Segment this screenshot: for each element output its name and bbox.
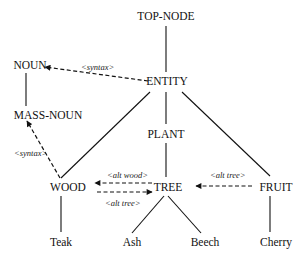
node-top-node: TOP-NODE — [137, 10, 194, 22]
node-tree: TREE — [154, 181, 183, 193]
label-wood-massnoun: <syntax> — [14, 148, 47, 158]
edge-tree-beech — [168, 196, 201, 233]
node-teak: Teak — [50, 236, 72, 248]
node-wood: WOOD — [50, 181, 86, 193]
nodes: TOP-NODE ENTITY NOUN MASS-NOUN PLANT WOO… — [13, 10, 292, 249]
label-wood-tree: <alt tree> — [105, 198, 140, 208]
taxonomy-diagram: <syntax> <syntax> <alt wood> <alt tree> … — [0, 0, 302, 255]
label-tree-wood: <alt wood> — [107, 170, 148, 180]
label-fruit-tree: <alt tree> — [210, 170, 245, 180]
node-fruit: FRUIT — [259, 181, 292, 193]
node-entity: ENTITY — [146, 75, 188, 87]
node-ash: Ash — [123, 236, 142, 248]
edge-entity-wood — [61, 92, 150, 178]
edge-entity-fruit — [182, 92, 270, 176]
node-cherry: Cherry — [260, 236, 292, 249]
node-plant: PLANT — [147, 128, 184, 140]
node-beech: Beech — [191, 236, 220, 248]
node-noun: NOUN — [13, 59, 47, 71]
label-entity-noun: <syntax> — [81, 62, 114, 72]
node-mass-noun: MASS-NOUN — [14, 109, 83, 121]
